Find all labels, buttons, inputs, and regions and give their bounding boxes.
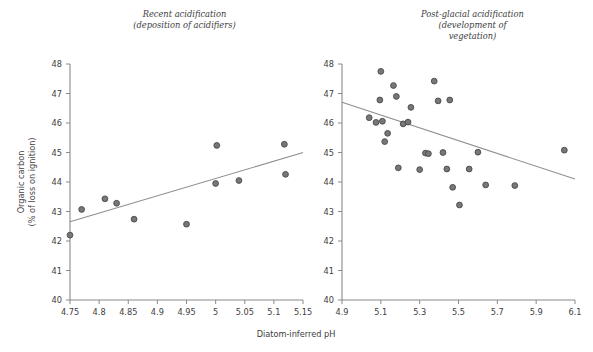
x-axis-label: Diatom-inferred pH — [257, 329, 336, 339]
panel-title-line: Post-glacial acidification — [420, 9, 524, 19]
x-tick-label: 5.1 — [374, 307, 387, 317]
y-axis-label-line2: (% of loss on ignition) — [27, 137, 37, 226]
x-tick-label: 5.7 — [491, 307, 504, 317]
data-point — [450, 184, 456, 190]
y-tick-label: 41 — [324, 266, 334, 276]
x-tick-label: 5 — [213, 307, 218, 317]
panel-title-line: (development of — [438, 20, 508, 30]
data-point — [67, 232, 73, 238]
y-tick-label: 45 — [324, 148, 334, 158]
data-point — [131, 216, 137, 222]
x-tick-label: 5.05 — [236, 307, 254, 317]
data-point — [102, 196, 108, 202]
y-tick-label: 41 — [52, 266, 62, 276]
data-point — [214, 143, 220, 149]
trend-line-right — [342, 102, 575, 179]
data-point — [457, 202, 463, 208]
data-point — [283, 171, 289, 177]
y-tick-label: 48 — [324, 59, 334, 69]
data-point — [512, 183, 518, 189]
x-tick-label: 5.15 — [294, 307, 312, 317]
panel-title-line: vegetation) — [449, 31, 497, 41]
y-axis-label-line1: Organic carbon — [16, 151, 26, 214]
data-point — [378, 68, 384, 74]
y-tick-label: 40 — [52, 295, 62, 305]
x-tick-label: 5.9 — [530, 307, 543, 317]
panel-right: Post-glacial acidification(development o… — [324, 9, 582, 317]
data-point — [466, 166, 472, 172]
data-point — [385, 130, 391, 136]
figure-container: Recent acidification(deposition of acidi… — [0, 0, 593, 352]
data-point — [417, 167, 423, 173]
x-tick-label: 4.85 — [119, 307, 137, 317]
x-axis-left: 4.754.84.854.94.9555.055.15.15 — [61, 300, 312, 317]
y-axis-left: 404142434445464748 — [52, 59, 70, 305]
x-tick-label: 4.75 — [61, 307, 79, 317]
data-point — [447, 97, 453, 103]
panel-title-line: (deposition of acidifiers) — [133, 20, 235, 30]
data-point — [114, 200, 120, 206]
y-tick-label: 48 — [52, 59, 62, 69]
data-point — [561, 147, 567, 153]
data-point — [405, 119, 411, 125]
data-point — [440, 150, 446, 156]
y-tick-label: 43 — [52, 207, 62, 217]
y-tick-label: 45 — [52, 148, 62, 158]
data-point — [391, 83, 397, 89]
data-points-right — [366, 68, 567, 207]
y-tick-label: 47 — [52, 89, 62, 99]
panel-left: Recent acidification(deposition of acidi… — [52, 9, 313, 317]
y-tick-label: 42 — [52, 236, 62, 246]
data-point — [395, 165, 401, 171]
data-point — [444, 166, 450, 172]
x-tick-label: 5.3 — [413, 307, 426, 317]
data-point — [79, 207, 85, 213]
y-tick-label: 42 — [324, 236, 334, 246]
data-point — [382, 139, 388, 145]
scatter-figure: Recent acidification(deposition of acidi… — [0, 0, 593, 352]
y-axis-label: Organic carbon(% of loss on ignition) — [16, 137, 37, 226]
y-tick-label: 44 — [324, 177, 334, 187]
x-axis-right: 4.95.15.35.55.75.96.1 — [335, 300, 581, 317]
x-tick-label: 5.5 — [452, 307, 465, 317]
data-point — [435, 98, 441, 104]
trend-line-left — [70, 153, 303, 222]
y-tick-label: 43 — [324, 207, 334, 217]
panel-title-left: Recent acidification(deposition of acidi… — [133, 9, 235, 30]
data-point — [393, 94, 399, 100]
x-tick-label: 4.8 — [93, 307, 106, 317]
y-tick-label: 44 — [52, 177, 62, 187]
data-point — [408, 104, 414, 110]
data-point — [475, 149, 481, 155]
data-point — [366, 115, 372, 121]
data-point — [373, 120, 379, 126]
x-tick-label: 6.1 — [568, 307, 581, 317]
x-tick-label: 5.1 — [267, 307, 280, 317]
y-tick-label: 46 — [52, 118, 62, 128]
x-tick-label: 4.9 — [151, 307, 164, 317]
data-point — [281, 141, 287, 147]
data-point — [483, 182, 489, 188]
data-point — [377, 97, 383, 103]
data-point — [379, 118, 385, 124]
y-tick-label: 40 — [324, 295, 334, 305]
x-tick-label: 4.9 — [335, 307, 348, 317]
axis-lines — [70, 64, 303, 300]
y-tick-label: 47 — [324, 89, 334, 99]
x-tick-label: 4.95 — [177, 307, 195, 317]
data-point — [236, 178, 242, 184]
data-point — [426, 151, 432, 157]
data-point — [431, 78, 437, 84]
data-point — [213, 181, 219, 187]
y-tick-label: 46 — [324, 118, 334, 128]
panel-title-line: Recent acidification — [142, 9, 227, 19]
data-point — [184, 221, 190, 227]
y-axis-right: 404142434445464748 — [324, 59, 342, 305]
panel-title-right: Post-glacial acidification(development o… — [420, 9, 524, 41]
